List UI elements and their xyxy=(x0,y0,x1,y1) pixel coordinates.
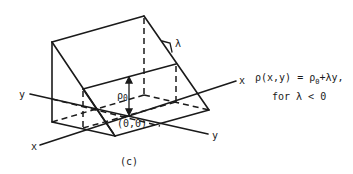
y-axis-label-left: y xyxy=(19,89,25,100)
lambda-label: λ xyxy=(175,38,181,49)
top-edge xyxy=(52,16,144,42)
rho0-label: ρ0 xyxy=(117,90,128,103)
y-axis-label-right: y xyxy=(212,130,218,141)
equation-line-2: for λ < 0 xyxy=(272,91,326,102)
x-axis-label-back: x xyxy=(239,75,245,86)
back-slope-edge xyxy=(144,16,209,110)
figure-caption: (c) xyxy=(120,156,138,167)
wedge-diagram: λ ρ0 (0,0) y x x y (c) xyxy=(0,0,353,174)
origin-label: (0,0) xyxy=(117,118,147,129)
x-axis-line xyxy=(40,81,236,145)
equation-prefix: ρ(x,y) = ρ xyxy=(255,72,315,83)
equation-suffix: +λy, xyxy=(319,72,343,83)
equation-line-1: ρ(x,y) = ρ0+λy, xyxy=(255,72,344,86)
x-axis-label-front: x xyxy=(31,141,37,152)
